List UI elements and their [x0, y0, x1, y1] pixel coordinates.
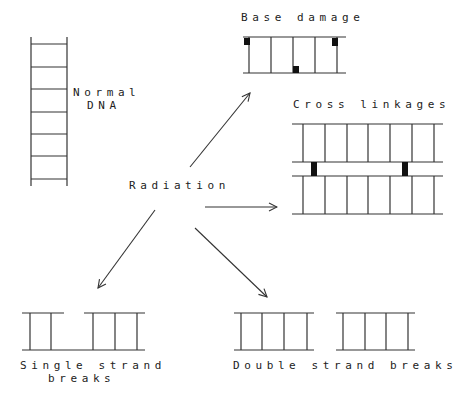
- diagram-graphics: [0, 0, 470, 404]
- normal-dna-ladder: [31, 37, 67, 186]
- dna-radiation-damage-diagram: Normal DNA Base damage Cross linkages Ra…: [0, 0, 470, 404]
- arrow-to-base-damage: [190, 93, 250, 167]
- cross-link-bonds: [311, 162, 408, 176]
- radiation-label: Radiation: [129, 180, 230, 192]
- arrow-to-double-strand-breaks: [195, 228, 267, 297]
- single-strand-label-line1: Single strand: [20, 360, 166, 372]
- base-damage-label: Base damage: [241, 12, 364, 24]
- single-strand-label-line2: breaks: [48, 373, 115, 385]
- double-strand-label: Double strand breaks: [233, 360, 457, 372]
- base-damage-lesions: [244, 38, 338, 73]
- double-strand-break-ladders: [234, 313, 415, 350]
- arrow-to-single-strand-breaks: [98, 210, 155, 288]
- single-strand-break-ladder: [22, 313, 145, 350]
- normal-dna-label-line1: Normal: [73, 87, 140, 99]
- normal-dna-label-line2: DNA: [87, 100, 121, 112]
- cross-linkages-label: Cross linkages: [293, 99, 450, 111]
